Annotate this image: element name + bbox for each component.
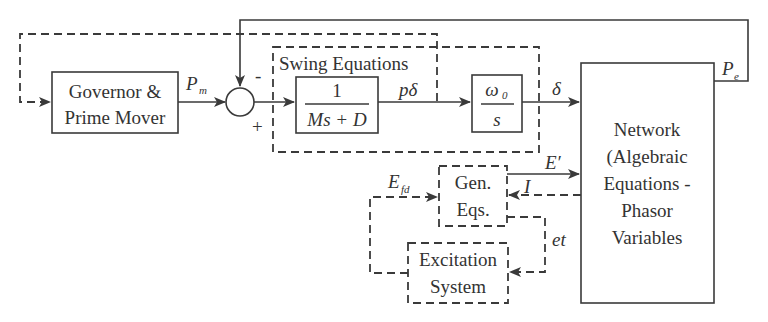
gen-eqs-label-line1: Gen. xyxy=(455,172,491,193)
summing-junction xyxy=(226,88,254,116)
governor-label-line2: Prime Mover xyxy=(65,107,166,128)
swing-tf-numerator: 1 xyxy=(332,80,342,101)
pm-label: P xyxy=(185,73,198,94)
swing-equations-label: Swing Equations xyxy=(279,53,408,74)
pe-subscript: e xyxy=(734,70,739,82)
power-system-block-diagram: Governor & Prime Mover P m - + P e Swing… xyxy=(0,0,768,322)
efd-subscript: fd xyxy=(401,183,410,195)
network-label-line3: Equations - xyxy=(603,173,690,194)
excitation-label-line2: System xyxy=(430,276,486,297)
current-label: I xyxy=(523,176,532,197)
swing-tf-denominator: Ms + D xyxy=(306,109,367,130)
network-label-line1: Network xyxy=(614,119,681,140)
integrator-numerator-subscript: 0 xyxy=(502,89,508,101)
et-label: et xyxy=(552,229,566,250)
integrator-denominator: s xyxy=(493,109,500,130)
et-line xyxy=(507,217,545,272)
p-delta-label: pδ xyxy=(397,79,419,100)
plus-sign: + xyxy=(252,116,263,137)
network-label-line2: (Algebraic xyxy=(606,146,687,168)
network-label-line4: Phasor xyxy=(621,200,673,221)
e-prime-label: E′ xyxy=(544,152,562,173)
integrator-numerator: ω xyxy=(485,79,498,100)
gen-eqs-label-line2: Eqs. xyxy=(456,199,489,220)
pe-label: P xyxy=(721,58,734,79)
network-label-line5: Variables xyxy=(612,227,683,248)
efd-label: E xyxy=(387,171,400,192)
governor-label-line1: Governor & xyxy=(69,81,162,102)
delta-label: δ xyxy=(552,78,562,99)
excitation-label-line1: Excitation xyxy=(419,249,498,270)
pm-subscript: m xyxy=(199,84,207,96)
minus-sign: - xyxy=(255,65,261,86)
